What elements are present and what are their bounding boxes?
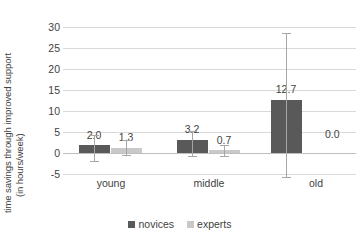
legend-label-experts: experts	[197, 218, 231, 230]
legend-label-novices: novices	[138, 218, 174, 230]
y-tick-0: 0	[34, 147, 60, 159]
bar-group-young: 2.0 1.3	[63, 27, 159, 195]
y-tick-minus-5: -5	[34, 168, 60, 180]
x-label-middle: middle	[194, 177, 225, 189]
errorbar-cap-bottom	[220, 156, 229, 157]
bar-group-middle: 3.2 0.7	[161, 27, 257, 195]
y-axis-tick-labels: 30 25 20 15 10 5 0 -5	[34, 0, 60, 246]
x-axis-category-labels: young middle old	[63, 177, 356, 195]
y-tick-5: 5	[34, 126, 60, 138]
chart-container: time savings through improved support (i…	[0, 0, 360, 246]
y-tick-15: 15	[34, 84, 60, 96]
errorbar-old-novices	[286, 33, 287, 178]
x-label-young: young	[97, 177, 126, 189]
errorbar-cap-top	[220, 145, 229, 146]
y-tick-20: 20	[34, 63, 60, 75]
errorbar-cap-top	[90, 135, 99, 136]
errorbar-cap-top	[188, 131, 197, 132]
bar-group-old: 12.7 0.0	[259, 27, 355, 195]
legend-swatch-novices-icon	[128, 221, 135, 228]
y-tick-10: 10	[34, 105, 60, 117]
errorbar-middle-experts	[224, 145, 225, 157]
errorbar-cap-top	[122, 140, 131, 141]
y-tick-25: 25	[34, 42, 60, 54]
y-axis-title-line-2: (in hours/week)	[14, 134, 25, 197]
legend-item-experts[interactable]: experts	[187, 218, 231, 230]
errorbar-middle-novices	[192, 131, 193, 157]
y-tick-30: 30	[34, 21, 60, 33]
y-axis-title: time savings through improved support (i…	[0, 0, 38, 205]
legend-item-novices[interactable]: novices	[128, 218, 174, 230]
plot-area: 2.0 1.3 3.2 0.7	[63, 27, 356, 195]
x-label-old: old	[309, 177, 323, 189]
errorbar-young-novices	[94, 135, 95, 162]
bar-label-old-experts: 0.0	[325, 128, 340, 140]
errorbar-cap-top	[282, 33, 291, 34]
errorbar-cap-bottom	[90, 161, 99, 162]
y-axis-title-line-1: time savings through improved support	[2, 53, 13, 213]
errorbar-young-experts	[126, 140, 127, 156]
errorbar-cap-bottom	[188, 156, 197, 157]
errorbar-cap-bottom	[122, 155, 131, 156]
chart-legend: novices experts	[0, 218, 360, 230]
legend-swatch-experts-icon	[187, 221, 194, 228]
